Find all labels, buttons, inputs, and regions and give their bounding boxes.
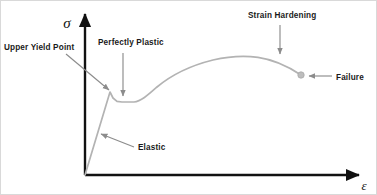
y-axis-label: σ xyxy=(63,15,71,31)
annotation-failure: Failure xyxy=(336,73,364,82)
annotation-upper-yield-point: Upper Yield Point xyxy=(4,43,74,52)
annotation-perfectly-plastic: Perfectly Plastic xyxy=(98,38,164,47)
figure-border xyxy=(1,1,377,195)
annotation-strain-hardening: Strain Hardening xyxy=(248,11,316,20)
x-axis-label: ε xyxy=(361,178,367,193)
stress-strain-figure: σ ε Upper Yield Point Perfectly Plastic … xyxy=(0,0,377,195)
annotation-elastic: Elastic xyxy=(138,143,166,152)
failure-point-marker xyxy=(298,72,304,78)
stress-strain-chart-svg: σ ε Upper Yield Point Perfectly Plastic … xyxy=(0,0,377,195)
